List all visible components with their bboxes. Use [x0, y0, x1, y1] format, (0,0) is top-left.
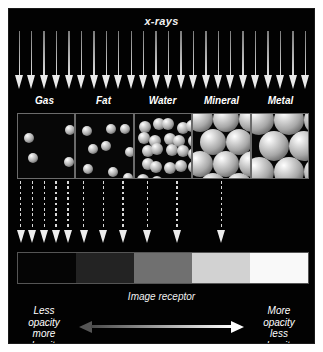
ray-arrowhead [27, 75, 35, 89]
transmitted-ray-arrow [119, 181, 128, 249]
legend-left-text: Lessopacitymoredensity [13, 305, 75, 344]
ray-arrowhead [289, 75, 297, 89]
bidirectional-arrow [79, 319, 244, 335]
ray-shaft [267, 31, 268, 79]
transmitted-ray-arrowhead [17, 230, 25, 243]
ray-arrowhead [189, 75, 197, 89]
image-receptor-strip [17, 252, 309, 284]
incident-ray-arrow [77, 31, 86, 93]
legend-right-line-1: opacity [248, 317, 310, 329]
ray-arrowhead [164, 75, 172, 89]
particle-sphere [24, 133, 34, 143]
receptor-band-metal [250, 253, 308, 283]
particle-sphere [125, 147, 134, 157]
particle-sphere [120, 124, 130, 134]
ray-arrowhead [251, 75, 259, 89]
receptor-band-mineral [192, 253, 250, 283]
legend-right-line-2: less [248, 328, 310, 340]
particle-sphere [28, 153, 38, 163]
ray-shaft [205, 31, 206, 79]
transmitted-ray-shaft [221, 181, 222, 233]
transmitted-ray-arrowhead [28, 230, 36, 243]
incident-ray-arrow [127, 31, 136, 93]
incident-ray-arrow [65, 31, 74, 93]
material-label-mineral: Mineral [192, 95, 251, 106]
ray-shaft [230, 31, 231, 79]
incident-ray-arrow [289, 31, 298, 93]
ray-shaft [31, 31, 32, 79]
transmitted-ray-shaft [20, 181, 21, 233]
ray-shaft [255, 31, 256, 79]
material-label-water: Water [133, 95, 192, 106]
ray-arrowhead [202, 75, 210, 89]
arrow-shaft [91, 325, 232, 328]
ray-arrowhead [301, 75, 309, 89]
ray-shaft [131, 31, 132, 79]
material-boxes-row [17, 113, 309, 179]
particle-sphere [123, 173, 133, 179]
incident-ray-arrow [264, 31, 273, 93]
legend-left-line-3: density [13, 340, 75, 345]
ray-arrowhead [139, 75, 147, 89]
arrow-right-head [231, 321, 244, 333]
incident-ray-arrow [102, 31, 111, 93]
incident-ray-arrow [189, 31, 198, 93]
ray-shaft [118, 31, 119, 79]
incident-ray-arrow [301, 31, 310, 93]
transmitted-ray-arrow [52, 181, 61, 249]
material-box-water [134, 113, 192, 179]
transmitted-ray-shaft [103, 181, 104, 233]
transmitted-ray-shaft [44, 181, 45, 233]
transmitted-ray-arrowhead [99, 230, 107, 243]
ray-arrowhead [65, 75, 73, 89]
legend-right-text: Moreopacitylessdensity [248, 305, 310, 344]
material-box-gas [17, 113, 75, 179]
material-labels-row: GasFatWaterMineralMetal [15, 95, 310, 109]
ray-shaft [168, 31, 169, 79]
transmitted-ray-arrowhead [64, 230, 72, 243]
incident-ray-arrow [90, 31, 99, 93]
transmitted-xray-beam [15, 181, 310, 249]
material-box-fat [75, 113, 133, 179]
incident-ray-arrow [15, 31, 24, 93]
material-label-gas: Gas [15, 95, 74, 106]
incident-ray-arrow [177, 31, 186, 93]
ray-shaft [106, 31, 107, 79]
transmitted-ray-arrowhead [40, 230, 48, 243]
material-label-metal: Metal [251, 95, 310, 106]
receptor-band-gas [18, 253, 76, 283]
particle-sphere [82, 126, 92, 136]
material-label-fat: Fat [74, 95, 133, 106]
legend-left-line-1: opacity [13, 317, 75, 329]
transmitted-ray-arrow [64, 181, 73, 249]
image-receptor-label: Image receptor [9, 291, 314, 302]
transmitted-ray-shaft [67, 181, 68, 233]
particle-sphere [289, 131, 309, 161]
incident-ray-arrow [40, 31, 49, 93]
transmitted-ray-arrow [79, 181, 88, 249]
incident-xray-beam [15, 31, 310, 93]
ray-arrowhead [239, 75, 247, 89]
transmitted-ray-shaft [176, 181, 177, 233]
ray-shaft [68, 31, 69, 79]
material-box-mineral [192, 113, 250, 179]
incident-ray-arrow [251, 31, 260, 93]
transmitted-ray-shaft [32, 181, 33, 233]
ray-arrowhead [127, 75, 135, 89]
incident-ray-arrow [164, 31, 173, 93]
transmitted-ray-shaft [122, 181, 123, 233]
transmitted-ray-arrowhead [217, 230, 225, 243]
ray-shaft [43, 31, 44, 79]
ray-shaft [56, 31, 57, 79]
incident-ray-arrow [214, 31, 223, 93]
ray-arrowhead [15, 75, 23, 89]
ray-arrowhead [114, 75, 122, 89]
transmitted-ray-arrow [173, 181, 182, 249]
incident-ray-arrow [276, 31, 285, 93]
ray-arrowhead [214, 75, 222, 89]
transmitted-ray-arrowhead [173, 230, 181, 243]
ray-arrowhead [152, 75, 160, 89]
incident-ray-arrow [152, 31, 161, 93]
transmitted-ray-shaft [55, 181, 56, 233]
ray-shaft [143, 31, 144, 79]
